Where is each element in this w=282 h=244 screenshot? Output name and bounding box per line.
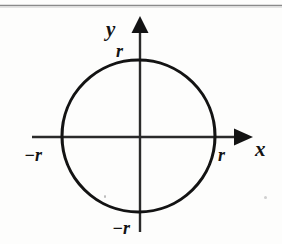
x-negative-tick-label: −r (24, 146, 42, 164)
circle-diagram-svg (0, 0, 282, 244)
y-positive-tick-label: r (116, 42, 123, 60)
x-axis-arrowhead (234, 129, 253, 146)
y-negative-tick-label: −r (112, 219, 130, 237)
scan-speck-right (264, 196, 267, 199)
y-axis-arrowhead (132, 16, 149, 33)
scan-speck-left (104, 195, 106, 198)
x-axis-label: x (255, 139, 266, 160)
x-positive-tick-label: r (218, 146, 225, 164)
y-axis-label: y (106, 19, 115, 40)
figure-canvas: y r −r r x −r (0, 0, 282, 244)
